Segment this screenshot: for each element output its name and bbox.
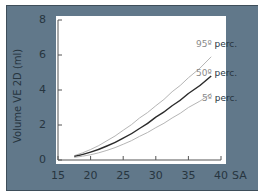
legend-5-num: 5º <box>202 93 212 103</box>
y-tick-label: 0 <box>39 154 46 165</box>
legend-95th-percentile: 95º perc. <box>196 39 237 49</box>
legend-50-num: 50º <box>196 68 212 78</box>
x-axis-label: SA <box>232 170 247 181</box>
legend-95-num: 95º <box>196 39 212 49</box>
legend-95-unit: perc. <box>215 39 238 49</box>
x-tick-label: 15 <box>51 170 65 181</box>
x-tick-label: 25 <box>116 170 130 181</box>
x-tick-label: 20 <box>84 170 98 181</box>
y-axis-label: Volume VE 2D (ml) <box>12 49 23 143</box>
legend-50-unit: perc. <box>215 68 238 78</box>
legend-50th-percentile: 50º perc. <box>196 68 237 78</box>
y-tick-label: 2 <box>39 119 46 130</box>
x-tick-label: 40 <box>214 170 228 181</box>
x-tick-label: 35 <box>181 170 195 181</box>
x-tick-label: 30 <box>149 170 163 181</box>
legend-5-unit: perc. <box>215 93 238 103</box>
legend-5th-percentile: 5º perc. <box>202 93 237 103</box>
y-tick-label: 8 <box>39 14 46 25</box>
y-tick-label: 6 <box>39 49 46 60</box>
y-tick-label: 4 <box>39 84 46 95</box>
